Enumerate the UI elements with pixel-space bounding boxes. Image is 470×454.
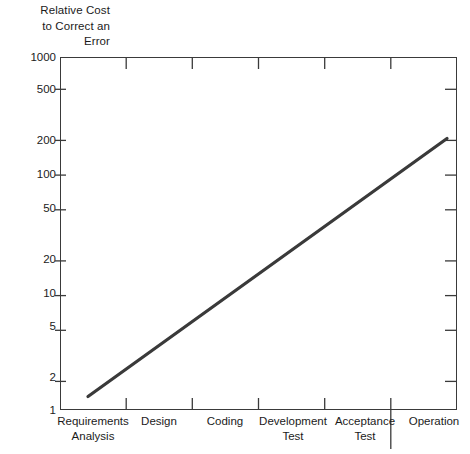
x-category-line-2: Test (254, 429, 332, 444)
y-tick-label-1000: 1000 (4, 52, 56, 64)
y-tick-label-5: 5 (4, 321, 56, 333)
x-category-coding: Coding (192, 414, 258, 429)
x-category-line-2: Analysis (50, 429, 136, 444)
x-category-line-2: Test (329, 429, 401, 444)
y-tick-label-1: 1 (4, 405, 56, 417)
x-category-line-1: Operation (396, 414, 470, 429)
y-tick-label-100: 100 (4, 169, 56, 181)
x-category-line-1: Coding (192, 414, 258, 429)
x-category-line-1: Acceptance (329, 414, 401, 429)
x-category-acceptance-test: Acceptance Test (329, 414, 401, 444)
x-category-line-1: Development (254, 414, 332, 429)
x-category-development-test: Development Test (254, 414, 332, 444)
y-tick-label-20: 20 (4, 254, 56, 266)
x-axis-category-labels: Requirements Analysis Design Coding Deve… (60, 414, 457, 450)
x-category-line-1: Requirements (50, 414, 136, 429)
cost-to-correct-error-chart: Relative Cost to Correct an Error 1000 5… (0, 0, 470, 454)
x-category-requirements-analysis: Requirements Analysis (50, 414, 136, 444)
x-category-line-1: Design (126, 414, 192, 429)
plot-area (60, 57, 457, 410)
y-tick-label-500: 500 (4, 84, 56, 96)
y-tick-label-200: 200 (4, 135, 56, 147)
x-category-design: Design (126, 414, 192, 429)
y-axis-tick-labels: 1000 500 200 100 50 20 10 5 2 1 (0, 0, 56, 454)
y-tick-label-50: 50 (4, 203, 56, 215)
x-category-operation: Operation (396, 414, 470, 429)
y-tick-label-10: 10 (4, 288, 56, 300)
y-tick-label-2: 2 (4, 372, 56, 384)
